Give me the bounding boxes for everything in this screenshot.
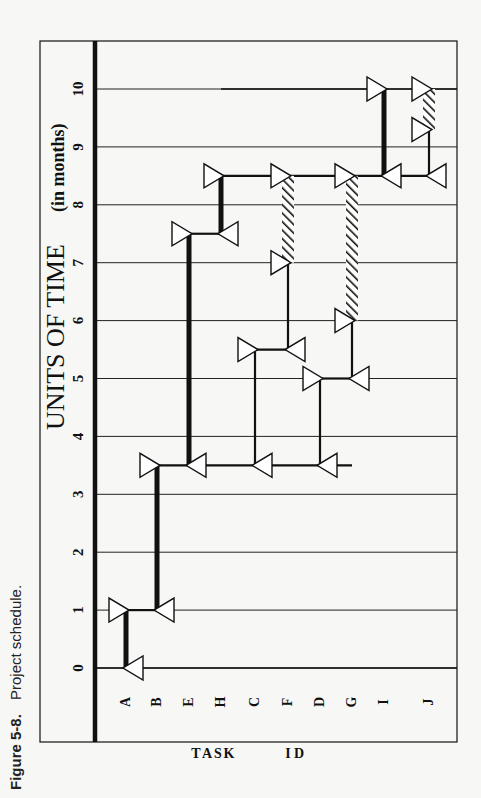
- chart-frame: [40, 41, 457, 742]
- svg-text:J: J: [421, 699, 436, 706]
- figure-label: Figure 5-8.: [7, 714, 24, 790]
- svg-text:F: F: [280, 698, 295, 707]
- tick-label: 6: [70, 316, 86, 324]
- task-label-a: A: [118, 696, 133, 707]
- tick-label: 5: [70, 375, 86, 383]
- svg-text:E: E: [181, 697, 196, 706]
- task-id-letter: T: [191, 746, 201, 761]
- svg-text:I: I: [376, 699, 391, 704]
- svg-text:8: 8: [70, 201, 86, 209]
- project-schedule-chart: Figure 5-8. Project schedule. UNITS OF T…: [0, 0, 481, 798]
- svg-text:A: A: [118, 696, 133, 707]
- tick-label: 3: [70, 491, 86, 499]
- tick-label: 7: [70, 258, 86, 266]
- slack-bar-f: [282, 176, 294, 263]
- task-id-letter: A: [202, 746, 213, 761]
- task-id-letter: K: [224, 746, 235, 761]
- task-id-letter: D: [294, 746, 304, 761]
- axis-title: UNITS OF TIME: [41, 244, 70, 430]
- task-id-letter: S: [214, 746, 222, 761]
- slack-bar-j: [423, 89, 435, 130]
- tick-label: 8: [70, 201, 86, 209]
- tick-label: 10: [70, 82, 86, 97]
- svg-text:7: 7: [70, 258, 86, 266]
- task-label-h: H: [213, 696, 228, 707]
- svg-text:1: 1: [70, 606, 86, 614]
- task-label-g: G: [344, 696, 359, 707]
- task-label-f: F: [280, 698, 295, 707]
- svg-text:G: G: [344, 696, 359, 707]
- task-labels: ABEHCFDGIJ: [118, 696, 436, 707]
- tick-label: 4: [70, 432, 86, 440]
- tick-label: 1: [70, 606, 86, 614]
- svg-text:9: 9: [70, 143, 86, 151]
- task-label-j: J: [421, 699, 436, 706]
- svg-text:3: 3: [70, 491, 86, 499]
- svg-text:H: H: [213, 696, 228, 707]
- svg-text:B: B: [149, 697, 164, 706]
- slack-bar-g: [346, 176, 358, 321]
- svg-text:5: 5: [70, 375, 86, 383]
- axis-title-group: UNITS OF TIME (in months): [41, 123, 70, 430]
- svg-text:10: 10: [70, 82, 86, 97]
- task-label-c: C: [247, 697, 262, 707]
- task-label-i: I: [376, 699, 391, 704]
- task-label-d: D: [312, 697, 327, 707]
- figure-caption: Figure 5-8. Project schedule.: [7, 585, 24, 790]
- task-id-label: TASKID: [191, 746, 304, 761]
- svg-text:2: 2: [70, 548, 86, 556]
- tick-label: 2: [70, 548, 86, 556]
- time-tick-labels: 012345678910: [70, 82, 86, 672]
- task-id-letter: I: [285, 746, 290, 761]
- figure-caption-text: Project schedule.: [7, 585, 24, 700]
- svg-text:0: 0: [70, 664, 86, 672]
- svg-text:6: 6: [70, 316, 86, 324]
- axis-unit: (in months): [48, 123, 69, 212]
- tick-label: 0: [70, 664, 86, 672]
- svg-text:4: 4: [70, 432, 86, 440]
- svg-text:D: D: [312, 697, 327, 707]
- svg-text:C: C: [247, 697, 262, 707]
- task-label-b: B: [149, 697, 164, 706]
- tick-label: 9: [70, 143, 86, 151]
- task-label-e: E: [181, 697, 196, 706]
